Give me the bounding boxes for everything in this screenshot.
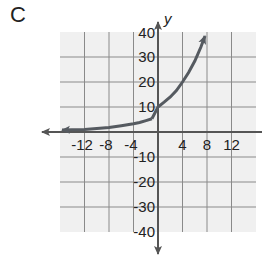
x-tick: -8 bbox=[99, 136, 112, 153]
x-tick: 12 bbox=[223, 136, 240, 153]
y-tick: -10 bbox=[133, 148, 155, 165]
y-tick: 20 bbox=[138, 73, 155, 90]
y-tick: 30 bbox=[138, 48, 155, 65]
exponential-graph: y -12 -8 -4 4 8 12 40 30 20 10 -10 -20 -… bbox=[0, 0, 263, 259]
y-tick: -20 bbox=[133, 173, 155, 190]
x-tick: 8 bbox=[203, 136, 211, 153]
y-tick: -40 bbox=[133, 223, 155, 240]
y-tick: 40 bbox=[138, 24, 155, 41]
x-tick: -12 bbox=[71, 136, 93, 153]
y-tick: -30 bbox=[133, 198, 155, 215]
y-axis-label: y bbox=[163, 10, 173, 27]
x-tick: 4 bbox=[178, 136, 186, 153]
y-tick: 10 bbox=[138, 98, 155, 115]
